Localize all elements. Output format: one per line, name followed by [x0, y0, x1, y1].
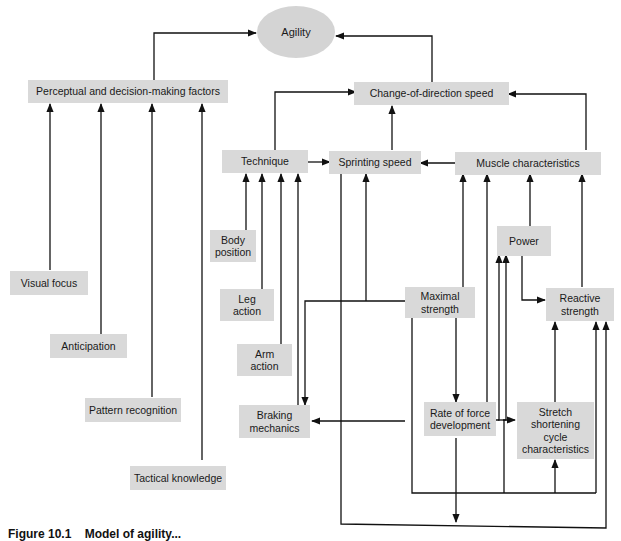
node-sprinting-speed: Sprinting speed — [329, 151, 421, 174]
node-reactive-strength: Reactive strength — [546, 288, 614, 321]
node-leg-action-label: Leg action — [223, 293, 271, 318]
node-anticipation-label: Anticipation — [61, 340, 115, 353]
node-rate-of-force-development: Rate of force development — [424, 402, 496, 436]
node-perceptual-decision-making: Perceptual and decision-making factors — [28, 80, 228, 103]
node-agility-label: Agility — [281, 26, 310, 39]
node-rfd-label: Rate of force development — [427, 407, 493, 432]
node-agility: Agility — [257, 6, 335, 58]
node-pattern-recognition-label: Pattern recognition — [89, 404, 177, 417]
node-arm-action-label: Arm action — [240, 348, 289, 373]
node-perceptual-label: Perceptual and decision-making factors — [36, 85, 220, 98]
node-muscle-label: Muscle characteristics — [476, 157, 579, 170]
node-visual-focus: Visual focus — [10, 271, 88, 295]
node-body-position: Body position — [210, 230, 256, 262]
node-technique-label: Technique — [241, 155, 289, 168]
node-change-of-direction-speed: Change-of-direction speed — [354, 82, 509, 105]
node-braking-mechanics: Braking mechanics — [239, 405, 310, 438]
node-ssc-characteristics: Stretch shortening cycle characteristics — [517, 402, 594, 459]
node-pattern-recognition: Pattern recognition — [85, 398, 181, 422]
node-cod-label: Change-of-direction speed — [370, 87, 494, 100]
node-power-label: Power — [509, 235, 539, 248]
node-reactive-strength-label: Reactive strength — [549, 292, 611, 317]
node-maximal-strength-label: Maximal strength — [408, 290, 472, 315]
node-maximal-strength: Maximal strength — [405, 287, 475, 318]
node-anticipation: Anticipation — [50, 334, 127, 358]
node-leg-action: Leg action — [220, 289, 274, 321]
node-sprinting-label: Sprinting speed — [339, 156, 412, 169]
node-arm-action: Arm action — [237, 344, 292, 376]
node-tactical-knowledge-label: Tactical knowledge — [134, 472, 222, 485]
figure-caption-text: Model of agility... — [85, 527, 181, 541]
node-visual-focus-label: Visual focus — [21, 277, 77, 290]
node-tactical-knowledge: Tactical knowledge — [130, 466, 226, 490]
node-ssc-label: Stretch shortening cycle characteristics — [520, 406, 591, 456]
figure-caption: Figure 10.1 Model of agility... — [8, 527, 181, 541]
figure-number: Figure 10.1 — [8, 527, 71, 541]
node-power: Power — [497, 226, 551, 256]
node-technique: Technique — [222, 150, 308, 173]
node-braking-mechanics-label: Braking mechanics — [242, 409, 307, 434]
node-muscle-characteristics: Muscle characteristics — [455, 152, 601, 175]
node-body-position-label: Body position — [213, 234, 253, 259]
